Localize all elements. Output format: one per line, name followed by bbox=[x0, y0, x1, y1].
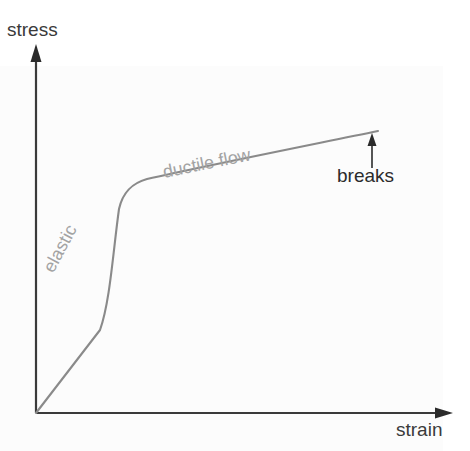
x-axis-arrowhead-icon bbox=[435, 408, 453, 419]
breaks-arrowhead-icon bbox=[368, 133, 377, 146]
y-axis-label: stress bbox=[7, 20, 58, 39]
y-axis-arrowhead-icon bbox=[31, 44, 42, 62]
annotation-label-breaks: breaks bbox=[337, 166, 394, 185]
x-axis-label: strain bbox=[396, 420, 442, 439]
stress-strain-diagram: stress strain elastic ductile flow break… bbox=[0, 0, 470, 451]
stress-strain-curve bbox=[36, 131, 378, 413]
